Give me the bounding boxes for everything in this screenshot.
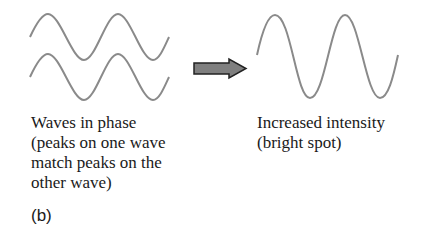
wave-top-left <box>30 14 169 60</box>
caption-line: Waves in phase <box>31 113 166 133</box>
wave-combined <box>257 15 398 98</box>
caption-line: match peaks on the <box>31 153 166 173</box>
intensity-caption: Increased intensity (bright spot) <box>257 113 385 153</box>
caption-line: other wave) <box>31 173 166 193</box>
wave-bottom-left <box>30 54 169 100</box>
caption-line: (bright spot) <box>257 133 385 153</box>
in-phase-caption: Waves in phase (peaks on one wave match … <box>31 113 166 193</box>
caption-line: (peaks on one wave <box>31 133 166 153</box>
panel-label: (b) <box>31 206 52 226</box>
caption-line: Increased intensity <box>257 113 385 133</box>
right-arrow-icon <box>194 59 246 78</box>
